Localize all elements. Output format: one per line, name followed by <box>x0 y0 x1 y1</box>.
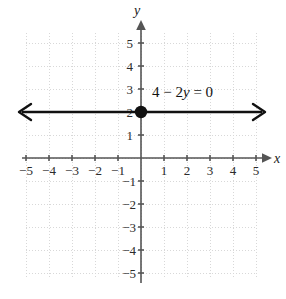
x-tick-label-5: 5 <box>253 163 260 178</box>
y-tick-label--4: −4 <box>122 243 136 258</box>
y-tick-label--3: −3 <box>122 220 136 235</box>
x-tick-label--3: −3 <box>65 163 79 178</box>
x-tick-label-4: 4 <box>230 163 237 178</box>
y-tick-label--2: −2 <box>122 197 136 212</box>
coordinate-graph-figure: −5 −4 −3 −2 −1 1 2 3 4 5 5 4 3 2 1 −1 −2… <box>0 0 286 299</box>
y-tick-label-3: 3 <box>127 82 134 97</box>
equation-variable: y <box>181 84 190 100</box>
equation-prefix: 4 − 2 <box>152 84 183 100</box>
x-tick-label-1: 1 <box>161 163 168 178</box>
y-tick-label--5: −5 <box>122 266 136 281</box>
figure-background <box>0 0 286 299</box>
y-tick-label--1: −1 <box>122 174 136 189</box>
x-axis-label: x <box>273 151 281 166</box>
y-tick-label-1: 1 <box>127 128 134 143</box>
equation-suffix: = 0 <box>190 84 213 100</box>
y-tick-label-5: 5 <box>127 36 134 51</box>
x-tick-label--2: −2 <box>88 163 102 178</box>
x-tick-label-3: 3 <box>207 163 214 178</box>
plotted-point-0-2 <box>135 106 147 118</box>
x-tick-label--4: −4 <box>42 163 56 178</box>
x-tick-label-2: 2 <box>184 163 191 178</box>
x-tick-label--5: −5 <box>19 163 33 178</box>
equation-annotation: 4 − 2y = 0 <box>152 84 213 100</box>
graph-canvas: −5 −4 −3 −2 −1 1 2 3 4 5 5 4 3 2 1 −1 −2… <box>0 0 286 299</box>
y-axis-label: y <box>132 3 141 18</box>
y-tick-label-4: 4 <box>127 59 134 74</box>
